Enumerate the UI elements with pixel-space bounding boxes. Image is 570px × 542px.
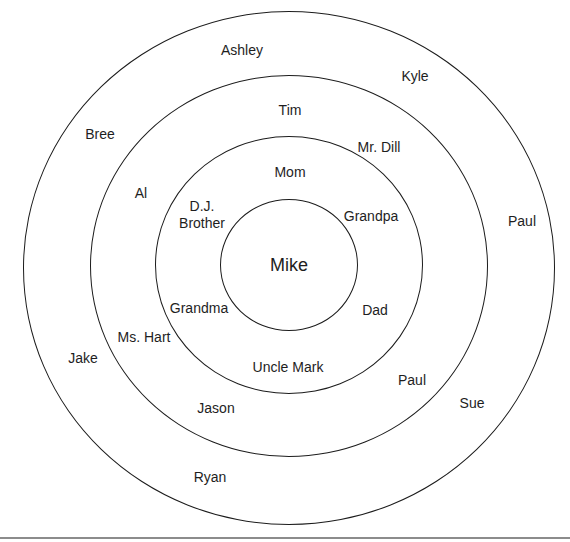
member-label: Ryan — [194, 469, 227, 486]
member-label: Grandpa — [344, 208, 398, 225]
member-label: Jake — [68, 350, 98, 367]
member-label: Bree — [85, 126, 115, 143]
member-label: Ms. Hart — [118, 329, 171, 346]
member-label: Dad — [362, 302, 388, 319]
member-label: Sue — [460, 395, 485, 412]
member-label: Grandma — [170, 300, 228, 317]
member-label: Paul — [398, 372, 426, 389]
member-label: Al — [135, 185, 147, 202]
member-label: Paul — [508, 213, 536, 230]
member-label: Mom — [274, 164, 305, 181]
member-label: Ashley — [221, 42, 263, 59]
member-label: Tim — [279, 102, 302, 119]
center-label: Mike — [270, 255, 308, 275]
member-label: Mr. Dill — [358, 139, 401, 156]
member-label-multiline: D.J. Brother — [179, 198, 225, 232]
member-label-line: Brother — [179, 215, 225, 232]
member-label-line: D.J. — [179, 198, 225, 215]
member-label: Uncle Mark — [253, 359, 324, 376]
circles-of-relationships-diagram: Mike Mom Grandpa Dad Uncle Mark Grandma … — [0, 0, 570, 542]
member-label: Kyle — [401, 68, 428, 85]
member-label: Jason — [197, 400, 234, 417]
bottom-divider-rule — [0, 537, 570, 539]
